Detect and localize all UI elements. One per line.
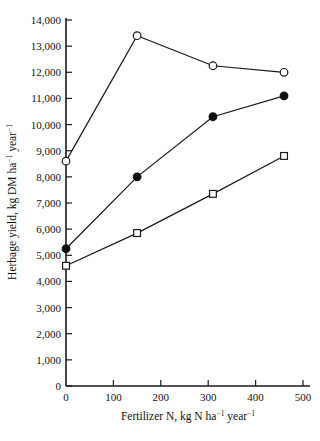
x-tick-label: 300 <box>200 391 217 403</box>
x-tick-label: 100 <box>105 391 122 403</box>
y-axis-tick-labels: 01,0002,0003,0004,0005,0006,0007,0008,00… <box>31 14 62 392</box>
series-open-circle-series <box>62 32 288 165</box>
series-line <box>66 36 284 161</box>
line-chart: 01,0002,0003,0004,0005,0006,0007,0008,00… <box>0 0 320 441</box>
y-axis-ticks <box>66 20 72 386</box>
y-tick-label: 6,000 <box>36 223 61 235</box>
x-tick-label: 400 <box>247 391 264 403</box>
series-line <box>66 156 284 266</box>
x-axis: 0100200300400500 <box>63 380 312 403</box>
y-tick-label: 0 <box>56 380 62 392</box>
y-tick-label: 10,000 <box>31 119 62 131</box>
y-axis-title: Herbage yield, kg DM ha−1 year−1 <box>5 124 19 280</box>
y-tick-label: 3,000 <box>36 302 61 314</box>
y-tick-label: 12,000 <box>31 66 62 78</box>
y-tick-label: 11,000 <box>31 92 61 104</box>
data-series-layer <box>62 32 288 269</box>
data-point-filled-circle <box>62 245 70 253</box>
data-point-square <box>210 190 217 197</box>
x-tick-label: 200 <box>153 391 170 403</box>
data-point-filled-circle <box>280 92 288 100</box>
y-tick-label: 4,000 <box>36 275 61 287</box>
x-axis-tick-labels: 0100200300400500 <box>63 391 312 403</box>
data-point-open-circle <box>280 68 288 76</box>
series-open-square-series <box>63 153 288 270</box>
chart-figure: 01,0002,0003,0004,0005,0006,0007,0008,00… <box>0 0 320 441</box>
data-point-filled-circle <box>209 113 217 121</box>
y-tick-label: 5,000 <box>36 249 61 261</box>
y-tick-label: 13,000 <box>31 40 62 52</box>
svg-text:Herbage yield, kg DM ha−1 year: Herbage yield, kg DM ha−1 year−1 <box>5 124 19 280</box>
data-point-square <box>63 262 70 269</box>
svg-text:Fertilizer N, kg N ha−1 year−1: Fertilizer N, kg N ha−1 year−1 <box>121 409 255 423</box>
x-axis-title: Fertilizer N, kg N ha−1 year−1 <box>121 409 255 423</box>
data-point-open-circle <box>62 157 70 165</box>
x-axis-ticks <box>113 380 303 386</box>
y-tick-label: 1,000 <box>36 354 61 366</box>
y-tick-label: 9,000 <box>36 145 61 157</box>
y-tick-label: 2,000 <box>36 328 61 340</box>
data-point-open-circle <box>209 62 217 70</box>
y-tick-label: 7,000 <box>36 197 61 209</box>
data-point-filled-circle <box>133 173 141 181</box>
x-tick-label: 500 <box>295 391 312 403</box>
y-tick-label: 14,000 <box>31 14 62 26</box>
data-point-open-circle <box>133 32 141 40</box>
y-tick-label: 8,000 <box>36 171 61 183</box>
data-point-square <box>281 153 288 160</box>
data-point-square <box>134 230 141 237</box>
x-tick-label: 0 <box>63 391 69 403</box>
series-line <box>66 96 284 249</box>
y-axis: 01,0002,0003,0004,0005,0006,0007,0008,00… <box>31 14 72 392</box>
